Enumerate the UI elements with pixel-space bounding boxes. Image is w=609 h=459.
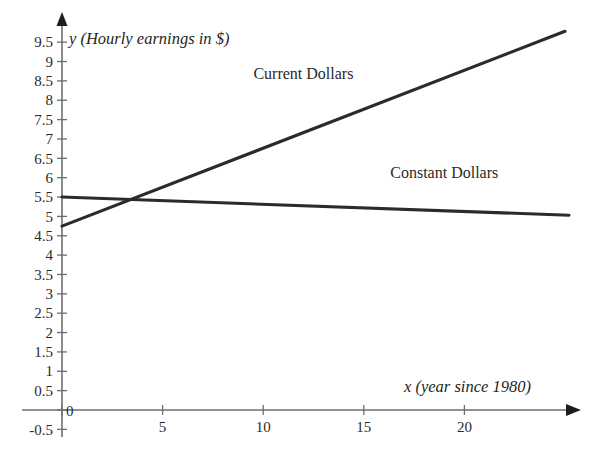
y-tick-label: 6 <box>46 170 54 186</box>
x-axis-title: x (year since 1980) <box>403 377 531 396</box>
y-tick-label: 5.5 <box>34 189 53 205</box>
y-tick-label: 0.5 <box>34 383 53 399</box>
y-tick-label: 2.5 <box>34 305 53 321</box>
y-tick-label: 3 <box>46 286 54 302</box>
y-tick-label: 1.5 <box>34 344 53 360</box>
y-tick-label: 4 <box>46 247 54 263</box>
y-tick-label: 1 <box>46 363 54 379</box>
series-label-constant-dollars: Constant Dollars <box>390 164 498 181</box>
series-label-current-dollars: Current Dollars <box>253 65 353 82</box>
y-tick-label: 7 <box>46 131 54 147</box>
y-tick-label: 2 <box>46 325 54 341</box>
y-axis-arrow-icon <box>57 12 68 26</box>
chart-page: -0.50.511.522.533.544.555.566.577.588.59… <box>0 0 609 459</box>
series-line-constant-dollars <box>62 197 569 215</box>
x-tick-label: 15 <box>356 419 371 435</box>
x-tick-label: 10 <box>256 419 271 435</box>
y-tick-label: 8.5 <box>34 73 53 89</box>
y-tick-label: 8 <box>46 92 54 108</box>
x-axis-arrow-icon <box>566 404 581 416</box>
series-line-current-dollars <box>62 31 565 226</box>
x-tick-label: 20 <box>457 419 472 435</box>
series-lines-group <box>62 31 569 226</box>
y-tick-label: -0.5 <box>29 422 53 438</box>
y-axis-title: y (Hourly earnings in $) <box>67 29 229 48</box>
y-tick-label: 3.5 <box>34 267 53 283</box>
line-chart: -0.50.511.522.533.544.555.566.577.588.59… <box>0 0 609 459</box>
y-tick-label: 5 <box>46 209 54 225</box>
y-tick-label: 4.5 <box>34 228 53 244</box>
y-tick-label: 9.5 <box>34 34 53 50</box>
y-tick-label: 7.5 <box>34 112 53 128</box>
origin-tick-label: 0 <box>66 403 74 419</box>
y-tick-label: 6.5 <box>34 151 53 167</box>
x-tick-label: 5 <box>159 419 167 435</box>
y-tick-label: 9 <box>46 54 54 70</box>
